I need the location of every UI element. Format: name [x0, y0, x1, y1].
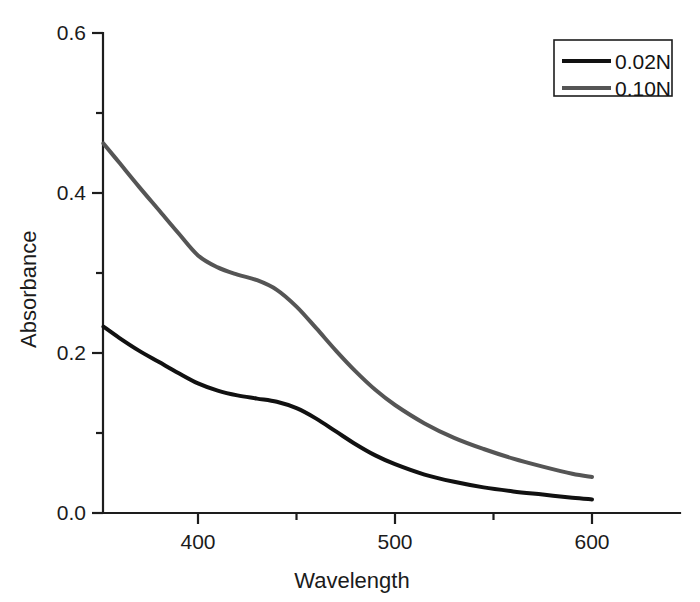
x-tick-label: 600 [574, 530, 609, 553]
x-axis-title: Wavelength [294, 568, 409, 593]
series-line-0-02N [103, 327, 592, 500]
x-tick-label: 400 [180, 530, 215, 553]
data-series-group [103, 143, 592, 499]
absorbance-spectrum-chart: 0.00.20.40.6 400500600 Absorbance Wavele… [0, 0, 700, 602]
series-line-0-10N [103, 143, 592, 477]
y-axis-title: Absorbance [16, 231, 41, 348]
y-axis-tick-labels: 0.00.20.40.6 [57, 21, 87, 524]
y-axis-ticks [92, 33, 103, 513]
legend-label-0-10N: 0.10N [615, 77, 671, 100]
y-tick-label: 0.2 [57, 341, 86, 364]
chart-page: 0.00.20.40.6 400500600 Absorbance Wavele… [0, 0, 700, 602]
x-tick-label: 500 [377, 530, 412, 553]
y-tick-label: 0.6 [57, 21, 86, 44]
x-axis-tick-labels: 400500600 [180, 530, 609, 553]
axes-group [103, 33, 680, 513]
x-axis-ticks [198, 513, 592, 524]
y-tick-label: 0.0 [57, 501, 86, 524]
legend-label-0-02N: 0.02N [615, 50, 671, 73]
y-tick-label: 0.4 [57, 181, 87, 204]
legend: 0.02N0.10N [554, 40, 672, 100]
